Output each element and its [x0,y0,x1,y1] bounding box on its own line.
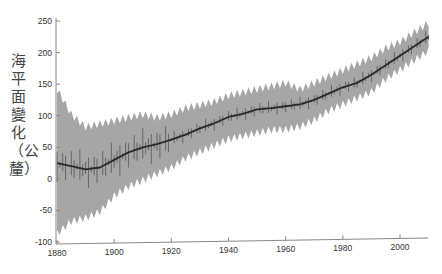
svg-text:2000: 2000 [391,242,410,252]
svg-text:1900: 1900 [105,247,124,257]
svg-text:250: 250 [38,16,52,26]
svg-text:50: 50 [43,142,53,152]
svg-text:1920: 1920 [162,246,181,256]
svg-text:100: 100 [38,111,52,121]
svg-text:1980: 1980 [333,243,352,253]
svg-text:200: 200 [38,48,52,58]
svg-text:150: 150 [38,79,52,89]
svg-text:-100: -100 [35,237,52,247]
uncertainty-band [57,21,429,235]
svg-text:1960: 1960 [276,244,295,254]
svg-text:-50: -50 [40,205,53,215]
sea-level-chart: -100-50050100150200250188019001920194019… [0,0,442,274]
svg-text:0: 0 [47,174,52,184]
svg-text:1940: 1940 [219,245,238,255]
svg-text:1880: 1880 [48,248,67,258]
